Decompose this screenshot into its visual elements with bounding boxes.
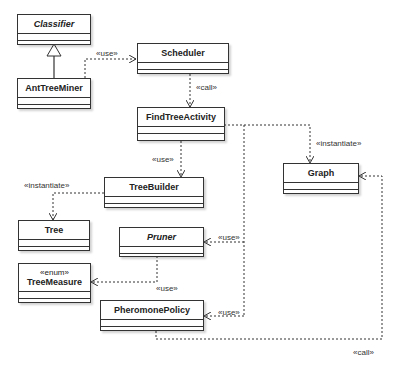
operations-compartment [18,105,90,111]
attributes-compartment [18,98,90,105]
stereotype-label: «enum» [21,268,88,277]
operations-compartment [19,299,90,305]
attributes-compartment [138,127,224,134]
class-tree[interactable]: Tree [18,220,90,251]
attributes-compartment [120,247,203,254]
class-tree-measure[interactable]: «enum» TreeMeasure [18,263,91,303]
class-pheromone-policy[interactable]: PheromonePolicy [100,300,204,331]
attributes-compartment [284,183,358,190]
label-use-ant-scheduler: «use» [96,49,118,58]
label-use-pruner: «use» [218,233,240,242]
attributes-compartment [19,240,89,247]
attributes-compartment [105,197,203,204]
class-name: Scheduler [138,44,228,63]
class-pruner[interactable]: Pruner [119,227,204,257]
attributes-compartment [138,63,228,70]
class-name: AntTreeMiner [18,79,90,98]
operations-compartment [120,254,203,260]
attributes-compartment [19,292,90,299]
operations-compartment [18,41,90,47]
class-name: Tree [19,221,89,240]
operations-compartment [284,190,358,196]
class-find-tree-activity[interactable]: FindTreeActivity [137,107,225,141]
operations-compartment [105,204,203,210]
class-name: TreeMeasure [27,277,82,287]
attributes-compartment [101,320,203,327]
class-tree-builder[interactable]: TreeBuilder [104,177,204,208]
label-instantiate-graph: «instantiate» [316,139,361,148]
operations-compartment [138,70,228,76]
label-call-scheduler-find: «call» [196,83,217,92]
attributes-compartment [18,34,90,41]
operations-compartment [101,327,203,333]
operations-compartment [19,247,89,253]
label-call-graph: «call» [353,348,374,357]
class-name: Classifier [18,15,90,34]
class-name-block: «enum» TreeMeasure [19,264,90,292]
label-use-treemeasure: «use» [156,284,178,293]
class-classifier[interactable]: Classifier [17,14,91,45]
class-name: TreeBuilder [105,178,203,197]
class-name: Pruner [120,228,203,247]
class-name: FindTreeActivity [138,108,224,127]
class-name: PheromonePolicy [101,301,203,320]
class-scheduler[interactable]: Scheduler [137,43,229,74]
label-use-pheromone: «use» [218,308,240,317]
class-ant-tree-miner[interactable]: AntTreeMiner [17,78,91,109]
operations-compartment [138,134,224,140]
class-graph[interactable]: Graph [283,163,359,194]
label-use-treebuilder: «use» [152,155,174,164]
label-instantiate-tree: «instantiate» [24,181,69,190]
class-name: Graph [284,164,358,183]
